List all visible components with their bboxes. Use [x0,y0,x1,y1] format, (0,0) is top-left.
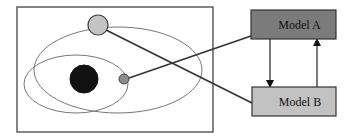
large-planet [88,15,108,35]
model-b-label: Model B [279,95,321,109]
orbital-diagram: Model A Model B [0,0,356,138]
model-a-label: Model A [278,18,321,32]
sun [70,65,98,93]
model-a-box: Model A [251,10,336,39]
model-b-box: Model B [252,87,336,116]
small-planet [119,74,129,84]
